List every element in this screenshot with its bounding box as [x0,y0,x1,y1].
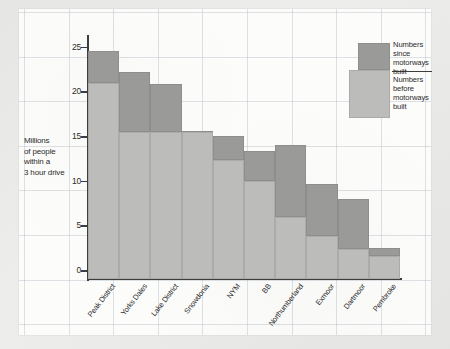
bar-column [244,151,275,279]
bar-segment-before-motorways [182,132,213,279]
bar-segment-since-motorways [306,184,337,237]
bar-column [150,84,181,279]
legend-label-line: before [393,84,439,93]
x-axis-label: Snowdonia [182,282,211,315]
bar-segment-before-motorways [88,83,119,279]
screenshot-page: Millionsof peoplewithin a3 hour drive 05… [0,0,450,349]
bar-segment-before-motorways [275,217,306,279]
legend-swatch-before [349,70,390,118]
legend-label-line: built [393,102,439,111]
x-axis-label: Pembroke [371,282,398,313]
bar-segment-since-motorways [244,151,275,180]
scanned-page: Millionsof peoplewithin a3 hour drive 05… [19,9,431,335]
bar-column [275,145,306,279]
x-axis-label: Peak District [86,282,117,319]
bar-segment-since-motorways [213,136,244,160]
x-axis-label: Yorks Dales [119,282,149,317]
chart-legend: Numberssincemotorwaysbuilt Numbersbefore… [337,25,431,135]
bar-column [213,136,244,279]
y-axis-tick-label: 25 [35,42,81,52]
bar-segment-before-motorways [150,132,181,279]
bar-column [306,184,337,280]
legend-label-line: motorways [393,58,439,67]
bar-column [338,199,369,279]
bar-segment-since-motorways [182,131,213,132]
x-axis-label: Dartmoor [342,282,367,311]
bar-segment-before-motorways [369,256,400,279]
x-axis-label: BB [261,282,274,295]
legend-label-line: Numbers [393,75,439,84]
bar-segment-since-motorways [275,145,306,216]
bar-segment-before-motorways [213,160,244,279]
x-axis-label: NYM [225,282,242,300]
bar-column [119,72,150,279]
y-axis-tick-label: 5 [35,220,81,230]
x-axis-label: Exmoor [314,282,336,307]
bar-column [182,131,213,279]
y-axis-title: Millionsof peoplewithin a3 hour drive [24,136,80,178]
legend-label-line: Numbers [393,40,439,49]
y-axis-tick-label: 10 [35,176,81,186]
bar-segment-before-motorways [244,181,275,279]
bar-segment-before-motorways [119,132,150,279]
legend-label-before: Numbersbeforemotorwaysbuilt [393,75,439,111]
y-axis-title-line: of people [24,147,80,158]
legend-label-line: since [393,49,439,58]
bar-segment-since-motorways [150,84,181,131]
bar-column [369,248,400,279]
stacked-bar-chart: Millionsof peoplewithin a3 hour drive 05… [19,9,431,335]
y-axis-title-line: within a [24,157,80,168]
bar-segment-since-motorways [338,199,369,249]
legend-label-line: motorways [393,93,439,102]
legend-label-since: Numberssincemotorwaysbuilt [393,40,439,76]
y-axis-tick-label: 20 [35,86,81,96]
bar-segment-since-motorways [369,248,400,256]
bar-segment-before-motorways [306,236,337,279]
bar-column [88,51,119,279]
y-axis-tick-label: 0 [35,265,81,275]
bar-segment-since-motorways [88,51,119,82]
legend-swatch-since [358,43,390,70]
bar-segment-since-motorways [119,72,150,132]
x-axis-label: Lake District [149,282,180,318]
y-axis-tick-label: 15 [35,131,81,141]
bar-segment-before-motorways [338,249,369,279]
